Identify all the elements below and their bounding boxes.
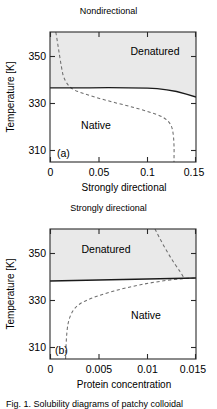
panel-a-label-denatured: Denatured: [130, 45, 179, 57]
panel-a-label-native: Native: [81, 119, 111, 131]
panel-b-ytick-350: 350: [28, 247, 46, 259]
panel-b-label: (b): [55, 344, 68, 356]
panel-a-xaxis-label: Strongly directional: [81, 182, 166, 193]
panel-b: Strongly directional: [0, 197, 217, 397]
panel-a-xtick-01: 0.1: [140, 166, 155, 178]
panel-a-ytick-350: 350: [28, 50, 46, 62]
panel-a-plot: 350 330 310 0 0.05 0.1 0.15 Strongly dir…: [0, 0, 217, 200]
figure-caption-clipped: Fig. 1. Solubility diagrams of patchy co…: [6, 399, 212, 409]
panel-a-xtick-0: 0: [48, 166, 54, 178]
panel-a-yaxis-label: Temperature [K]: [5, 61, 16, 132]
panel-b-xtick-0015: 0.015: [180, 363, 206, 375]
panel-b-label-denatured: Denatured: [81, 243, 130, 255]
panel-b-xtick-0005: 0.005: [86, 363, 112, 375]
panel-b-xtick-001: 0.01: [137, 363, 158, 375]
panel-a-ytick-330: 330: [28, 97, 46, 109]
panel-b-xtick-0: 0: [48, 363, 54, 375]
figure-container: Nondirectional: [0, 0, 217, 409]
panel-b-plot: 350 330 310 0 0.005 0.01 0.015 Protein c…: [0, 197, 217, 397]
panel-b-yaxis-label: Temperature [K]: [5, 258, 16, 329]
panel-b-xaxis-label: Protein concentration: [77, 379, 172, 390]
panel-a-xtick-015: 0.15: [184, 166, 205, 178]
panel-a-ytick-310: 310: [28, 144, 46, 156]
panel-b-ytick-310: 310: [28, 341, 46, 353]
panel-b-ytick-330: 330: [28, 294, 46, 306]
panel-a: Nondirectional: [0, 0, 217, 200]
panel-b-denatured-region: [50, 229, 196, 281]
panel-b-label-native: Native: [131, 309, 161, 321]
panel-a-label: (a): [57, 147, 70, 159]
panel-a-xtick-005: 0.05: [89, 166, 110, 178]
